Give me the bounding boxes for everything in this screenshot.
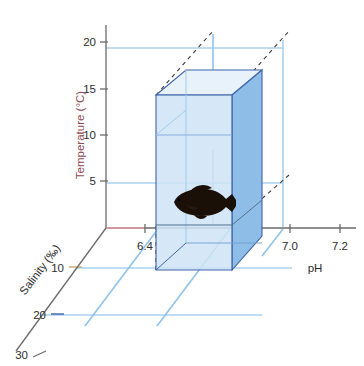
box-right-face [232, 70, 262, 270]
label-salinity-10: 10 [51, 262, 64, 274]
fish-eye [178, 199, 181, 202]
label-ph-72: 7.2 [332, 240, 348, 252]
label-salinity-30: 30 [15, 349, 28, 361]
label-temp-5: 5 [90, 175, 96, 187]
label-ph-64: 6.4 [137, 240, 154, 252]
label-ph-70: 7.0 [282, 240, 298, 252]
box-front-face [156, 95, 232, 270]
label-salinity-20: 20 [33, 309, 46, 321]
label-temp-20: 20 [83, 36, 96, 48]
tolerance-box-group [156, 70, 262, 270]
niche-3d-chart: 20 15 10 5 6.4 7.0 7.2 10 20 30 Temperat… [0, 0, 364, 366]
axis-title-ph: pH [308, 262, 323, 274]
figure-root: 20 15 10 5 6.4 7.0 7.2 10 20 30 Temperat… [0, 0, 364, 366]
axis-title-temperature: Temperature (°C) [74, 91, 86, 179]
